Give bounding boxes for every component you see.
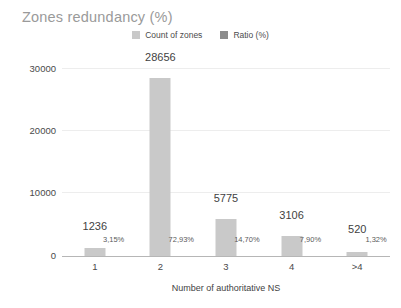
legend-label-ratio: Ratio (%) (233, 31, 268, 40)
bars-group: 1236 3,15% 28656 72,93% 5775 14,70% 3106… (62, 62, 390, 256)
bar-count-1[interactable] (84, 248, 105, 256)
bar-slot-2: 28656 72,93% (128, 62, 194, 256)
x-tick-label-4: 4 (259, 261, 325, 272)
bar-value-label-2: 28656 (145, 51, 176, 63)
x-axis-ticks: 1 2 3 4 >4 (62, 261, 390, 275)
x-tick-label-2: 2 (128, 261, 194, 272)
chart-legend: Count of zones Ratio (%) (0, 31, 401, 40)
bar-value-label-4: 3106 (279, 209, 303, 221)
y-tick-label-30000: 30000 (2, 63, 56, 74)
y-tick-label-10000: 10000 (2, 187, 56, 198)
x-tick-label-3: 3 (193, 261, 259, 272)
bar-count-5[interactable] (347, 252, 368, 256)
y-tick-label-0: 0 (2, 250, 56, 261)
x-axis-title: Number of authoritative NS (62, 283, 390, 293)
plot-area: 30000 20000 10000 0 1236 3,15% 28656 72,… (62, 62, 390, 257)
bar-ratio-label-5: 1,32% (365, 235, 386, 244)
bar-ratio-label-3: 14,70% (234, 235, 259, 244)
bar-slot-3: 5775 14,70% (193, 62, 259, 256)
x-tick-label-1: 1 (62, 261, 128, 272)
legend-label-count-of-zones: Count of zones (145, 31, 202, 40)
bar-value-label-1: 1236 (83, 220, 107, 232)
bar-slot-5: 520 1,32% (324, 62, 390, 256)
x-axis-line (62, 256, 390, 257)
bar-slot-1: 1236 3,15% (62, 62, 128, 256)
bar-value-label-5: 520 (348, 223, 366, 235)
chart-container: Zones redundancy (%) Count of zones Rati… (0, 0, 401, 308)
y-tick-label-20000: 20000 (2, 125, 56, 136)
bar-ratio-label-2: 72,93% (169, 235, 194, 244)
bar-value-label-3: 5775 (214, 192, 238, 204)
legend-item-ratio[interactable]: Ratio (%) (220, 31, 268, 40)
bar-count-2[interactable] (150, 78, 171, 256)
legend-swatch-icon (220, 31, 228, 39)
chart-title: Zones redundancy (%) (22, 9, 173, 25)
bar-slot-4: 3106 7,90% (259, 62, 325, 256)
x-tick-label-gt4: >4 (324, 261, 390, 272)
legend-item-count-of-zones[interactable]: Count of zones (132, 31, 202, 40)
legend-swatch-icon (132, 31, 140, 39)
bar-ratio-label-1: 3,15% (103, 235, 124, 244)
bar-ratio-label-4: 7,90% (300, 235, 321, 244)
